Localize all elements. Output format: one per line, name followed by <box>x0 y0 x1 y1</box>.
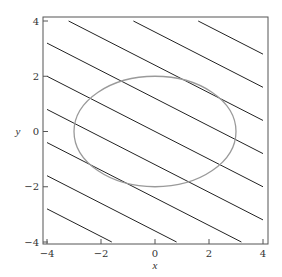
y-tick-label: 0 <box>33 126 39 137</box>
x-tick-label: −2 <box>94 248 109 259</box>
level-line-3 <box>47 109 263 219</box>
y-tick-label: 4 <box>33 16 39 27</box>
x-tick-label: 4 <box>260 248 266 259</box>
level-line-1 <box>47 176 177 242</box>
x-tick-label: 2 <box>206 248 212 259</box>
level-line-7 <box>133 21 263 87</box>
y-tick-label: −4 <box>24 237 39 248</box>
level-line-5 <box>47 43 263 154</box>
level-line-4 <box>47 76 263 187</box>
axis-ticks: −4−2024−4−2024 <box>24 16 266 260</box>
y-axis-label: y <box>15 125 21 137</box>
x-tick-label: −4 <box>40 248 55 259</box>
plot-marks <box>47 21 263 242</box>
axes-frame <box>43 17 268 244</box>
x-tick-label: 0 <box>152 248 158 259</box>
x-axis-label: x <box>152 259 158 271</box>
y-tick-label: 2 <box>33 71 39 82</box>
level-line-2 <box>47 143 241 242</box>
level-line-6 <box>69 21 263 120</box>
chart: −4−2024−4−2024 x y <box>0 0 282 277</box>
level-line-8 <box>198 21 263 54</box>
y-tick-label: −2 <box>24 181 39 192</box>
level-line-0 <box>47 209 112 242</box>
